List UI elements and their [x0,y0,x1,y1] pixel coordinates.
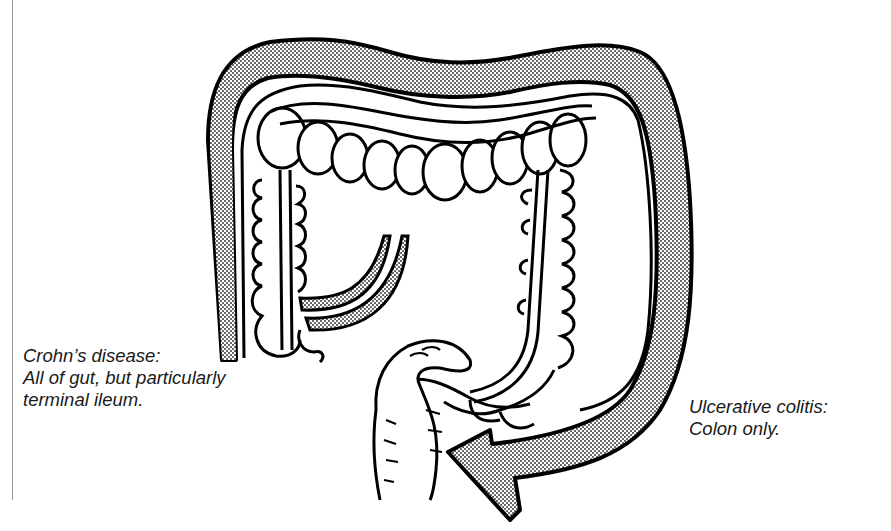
uc-line-1: Colon only. [689,418,828,440]
crohns-extent-band [210,74,246,360]
crohns-line-2: terminal ileum. [23,389,226,411]
ascending-colon [252,170,305,356]
transverse-colon [258,104,596,200]
uc-title: Ulcerative colitis: [689,396,828,418]
terminal-ileum [299,236,408,362]
crohns-line-1: All of gut, but particularly [23,367,226,389]
ulcerative-colitis-label: Ulcerative colitis: Colon only. [689,396,828,440]
crohns-title: Crohn’s disease: [23,345,226,367]
colon-illustration [0,0,891,531]
crohns-disease-label: Crohn’s disease: All of gut, but particu… [23,345,226,411]
rectum [374,341,471,500]
descending-colon [470,170,574,402]
